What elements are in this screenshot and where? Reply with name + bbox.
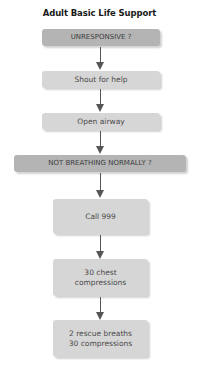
- step-unresponsive: UNRESPONSIVE ?: [42, 29, 160, 46]
- arrow-down-icon: [96, 173, 105, 198]
- step-not-breathing-normally: NOT BREATHING NORMALLY ?: [14, 155, 186, 172]
- arrow-down-icon: [96, 235, 105, 259]
- step-label-line1: 30 chest: [84, 268, 116, 278]
- step-label: NOT BREATHING NORMALLY ?: [48, 159, 152, 168]
- step-label: Call 999: [85, 212, 116, 222]
- arrow-down-icon: [96, 297, 105, 320]
- diagram-title: Adult Basic Life Support: [0, 8, 199, 18]
- step-label-line1: 2 rescue breaths: [69, 329, 132, 339]
- step-shout-for-help: Shout for help: [42, 71, 160, 88]
- step-label: Shout for help: [74, 75, 127, 85]
- step-chest-compressions: 30 chest compressions: [53, 259, 148, 296]
- step-label-line2: 30 compressions: [69, 339, 132, 349]
- step-label-line2: compressions: [75, 278, 126, 288]
- step-rescue-breaths: 2 rescue breaths 30 compressions: [53, 320, 148, 357]
- arrow-down-icon: [96, 89, 105, 112]
- step-open-airway: Open airway: [42, 113, 160, 130]
- step-label: Open airway: [77, 117, 124, 127]
- step-label: UNRESPONSIVE ?: [71, 33, 132, 42]
- step-call-999: Call 999: [53, 199, 148, 234]
- arrow-down-icon: [96, 131, 105, 154]
- arrow-down-icon: [96, 47, 105, 70]
